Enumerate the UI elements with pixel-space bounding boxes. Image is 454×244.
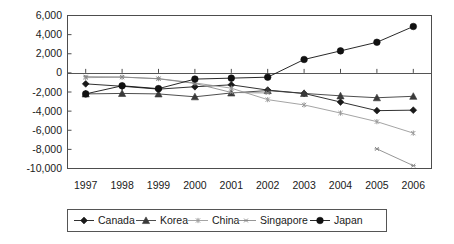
y-tick-label: -8,000 bbox=[32, 143, 62, 155]
legend-item-singapore[interactable]: Singapore bbox=[236, 214, 308, 226]
legend-label: Korea bbox=[160, 214, 188, 226]
legend-label: Japan bbox=[334, 214, 363, 226]
x-tick-label: 2005 bbox=[365, 179, 389, 191]
data-point-star-small bbox=[375, 147, 380, 151]
y-tick-label: -4,000 bbox=[32, 105, 62, 117]
data-point-circle bbox=[410, 23, 417, 30]
legend-label: China bbox=[212, 214, 240, 226]
legend-item-korea[interactable]: Korea bbox=[136, 214, 188, 226]
x-axis-tick-labels: 1997199819992000200120022003200420052006 bbox=[74, 179, 425, 191]
data-point-diamond bbox=[82, 80, 89, 87]
x-tick-label: 1999 bbox=[147, 179, 171, 191]
data-point-circle bbox=[82, 91, 89, 98]
x-tick-label: 2001 bbox=[220, 179, 244, 191]
legend-label: Canada bbox=[98, 214, 135, 226]
y-tick-label: 4,000 bbox=[36, 28, 62, 40]
y-tick-label: -2,000 bbox=[32, 86, 62, 98]
x-tick-label: 1998 bbox=[110, 179, 134, 191]
legend-item-japan[interactable]: Japan bbox=[310, 214, 363, 226]
line-chart: 6,0004,0002,0000-2,000-4,000-6,000-8,000… bbox=[0, 0, 454, 244]
x-axis-tick-marks bbox=[86, 69, 414, 73]
chart-container: 6,0004,0002,0000-2,000-4,000-6,000-8,000… bbox=[0, 0, 454, 244]
series-japan bbox=[82, 23, 416, 97]
series-singapore bbox=[83, 75, 415, 168]
x-tick-label: 2003 bbox=[292, 179, 316, 191]
data-point-star-small bbox=[244, 219, 249, 223]
series-china bbox=[84, 75, 416, 136]
data-point-star-small bbox=[411, 164, 416, 168]
x-tick-label: 2004 bbox=[329, 179, 353, 191]
data-point-circle bbox=[228, 75, 235, 82]
x-tick-label: 2006 bbox=[402, 179, 426, 191]
data-point-diamond bbox=[81, 217, 88, 224]
data-point-circle bbox=[317, 217, 324, 224]
y-tick-label: 0 bbox=[56, 66, 62, 78]
legend-item-canada[interactable]: Canada bbox=[74, 214, 135, 226]
y-axis-tick-labels: 6,0004,0002,0000-2,000-4,000-6,000-8,000… bbox=[26, 9, 62, 174]
x-tick-label: 2002 bbox=[256, 179, 280, 191]
y-tick-label: -10,000 bbox=[26, 162, 62, 174]
legend: CanadaKoreaChinaSingaporeJapan bbox=[74, 214, 363, 226]
data-point-circle bbox=[119, 82, 126, 89]
data-point-circle bbox=[155, 85, 162, 92]
x-tick-label: 2000 bbox=[183, 179, 207, 191]
data-point-diamond bbox=[374, 107, 381, 114]
y-tick-label: 2,000 bbox=[36, 47, 62, 59]
legend-item-china[interactable]: China bbox=[188, 214, 240, 226]
data-series-layer bbox=[82, 23, 417, 167]
x-tick-label: 1997 bbox=[74, 179, 98, 191]
data-point-circle bbox=[264, 74, 271, 81]
data-point-circle bbox=[374, 39, 381, 46]
data-point-diamond bbox=[410, 107, 417, 114]
data-point-circle bbox=[337, 48, 344, 55]
data-point-circle bbox=[192, 76, 199, 83]
data-point-circle bbox=[301, 56, 308, 63]
legend-label: Singapore bbox=[260, 214, 308, 226]
y-tick-label: -6,000 bbox=[32, 124, 62, 136]
y-tick-label: 6,000 bbox=[36, 9, 62, 21]
y-axis-tick-marks bbox=[68, 16, 72, 169]
data-point-diamond bbox=[337, 99, 344, 106]
